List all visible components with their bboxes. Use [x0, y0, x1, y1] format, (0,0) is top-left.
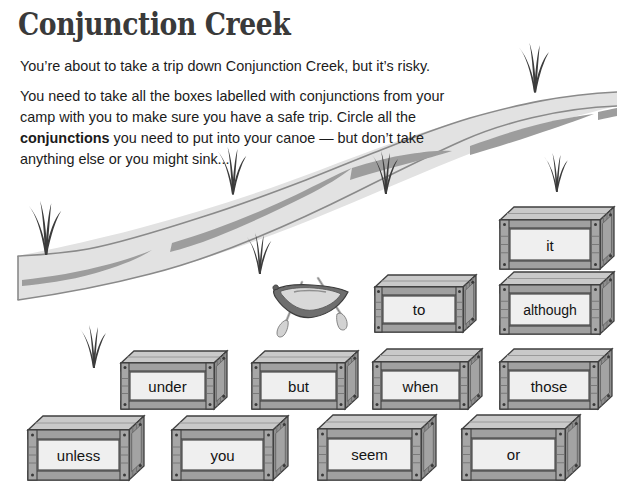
crate-nail	[376, 365, 379, 368]
crate-label-panel	[509, 371, 589, 400]
crate-side-panel	[603, 215, 612, 261]
crate-top-rail	[373, 362, 468, 370]
crate-nail	[353, 395, 356, 398]
crate-nail	[594, 328, 597, 331]
crate-nail	[609, 278, 612, 281]
crate-nail	[463, 403, 466, 406]
crate-nail	[471, 318, 474, 321]
crate-nail	[139, 464, 142, 467]
crate-label-panel	[182, 440, 263, 470]
crate-nail	[503, 223, 506, 226]
crate-box[interactable]: those	[500, 349, 612, 409]
crate-nail	[458, 326, 461, 329]
canoe	[273, 278, 348, 337]
crate-top-rail	[28, 430, 129, 439]
crate-nail	[431, 422, 434, 425]
crate-nail	[465, 432, 468, 435]
crate-label-panel	[261, 372, 336, 400]
crate-top-rail	[500, 220, 600, 228]
crate-label-panel	[510, 229, 590, 260]
conjunctions-emphasis: conjunctions	[20, 130, 110, 146]
crate-nail	[465, 474, 468, 477]
crate-box[interactable]: or	[462, 415, 580, 480]
crate-nail	[321, 474, 324, 477]
crate-nail	[415, 432, 418, 435]
crate-box[interactable]: under	[121, 351, 227, 409]
crate-nail	[609, 254, 612, 257]
crate-nail	[283, 423, 286, 426]
crate-nail	[340, 403, 343, 406]
grass-tuft	[544, 153, 567, 192]
crate-nail	[503, 288, 506, 291]
crate-box[interactable]: but	[252, 351, 358, 409]
grass-tuft	[80, 325, 106, 368]
crate-nail	[222, 357, 225, 360]
crate-bottom-rail	[500, 401, 598, 409]
crate-label-panel	[383, 296, 455, 323]
grass-tuft	[29, 201, 62, 255]
crate-nail	[267, 474, 270, 477]
crate-nail	[609, 213, 612, 216]
instruction-line-1: You’re about to take a trip down Conjunc…	[20, 56, 450, 77]
crate-label-panel	[38, 440, 119, 470]
crate-label-panel	[472, 439, 555, 470]
crate-nail	[503, 403, 506, 406]
crate-nail	[321, 432, 324, 435]
crate-nail	[415, 474, 418, 477]
instruction-text-before-bold: You need to take all the boxes labelled …	[20, 88, 444, 125]
page-title: Conjunction Creek	[18, 6, 290, 42]
crate-nail	[139, 423, 142, 426]
crate-bottom-rail	[375, 324, 463, 332]
instructions: You’re about to take a trip down Conjunc…	[20, 56, 450, 170]
crate-box[interactable]: to	[375, 275, 476, 332]
crate-nail	[575, 464, 578, 467]
crate-nail	[376, 403, 379, 406]
crate-nail	[594, 263, 597, 266]
crate-nail	[255, 366, 258, 369]
crate-box[interactable]: unless	[28, 416, 144, 480]
crate-nail	[463, 365, 466, 368]
crate-nail	[222, 395, 225, 398]
crate-label-panel	[328, 439, 411, 470]
crate-bottom-rail	[172, 471, 273, 480]
crate-nail	[594, 288, 597, 291]
crate-nail	[353, 357, 356, 360]
crate-nail	[267, 433, 270, 436]
crate-label-panel	[382, 371, 459, 400]
crate-top-rail	[172, 430, 273, 439]
crate-nail	[559, 432, 562, 435]
crate-top-rail	[462, 429, 565, 438]
crate-bottom-rail	[500, 326, 600, 334]
crate-bottom-rail	[500, 261, 600, 269]
crate-box[interactable]: when	[373, 349, 482, 409]
crate-top-rail	[500, 285, 600, 293]
crate-nail	[123, 433, 126, 436]
crate-bottom-rail	[252, 401, 345, 409]
crate-nail	[503, 365, 506, 368]
crate-nail	[575, 422, 578, 425]
crate-top-rail	[121, 363, 214, 371]
crate-bottom-rail	[28, 471, 129, 480]
crate-box[interactable]: you	[172, 416, 288, 480]
crate-top-rail	[500, 362, 598, 370]
crate-bottom-rail	[462, 471, 565, 480]
crate-nail	[209, 366, 212, 369]
crate-nail	[477, 355, 480, 358]
crate-nail	[377, 290, 380, 293]
crate-nail	[607, 355, 610, 358]
crate-nail	[593, 365, 596, 368]
crate-box[interactable]: seem	[318, 415, 436, 480]
crate-bottom-rail	[121, 401, 214, 409]
crate-nail	[609, 319, 612, 322]
crate-nail	[471, 281, 474, 284]
crate-nail	[458, 290, 461, 293]
crate-bottom-rail	[373, 401, 468, 409]
crate-nail	[175, 474, 178, 477]
crate-nail	[209, 403, 212, 406]
crate-nail	[503, 263, 506, 266]
crate-box[interactable]: it	[500, 207, 614, 269]
worksheet-page: Conjunction Creek You’re about to take a…	[0, 0, 617, 488]
crate-nail	[31, 474, 34, 477]
crate-top-rail	[252, 363, 345, 371]
crate-box[interactable]: although	[500, 272, 614, 334]
